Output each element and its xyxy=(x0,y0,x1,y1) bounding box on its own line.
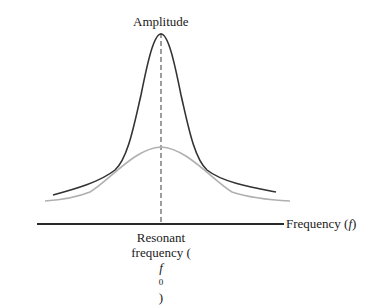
resonant-label-line2: frequency (f0) xyxy=(104,245,218,305)
broad-resonance-curve xyxy=(45,147,290,201)
amplitude-label: Amplitude xyxy=(133,14,189,29)
frequency-label-close: ) xyxy=(352,216,356,231)
resonant-label-line1: Resonant xyxy=(104,230,218,245)
resonant-label-close: ) xyxy=(104,290,218,305)
frequency-label-text: Frequency ( xyxy=(286,216,348,231)
resonant-subscript: 0 xyxy=(104,275,218,290)
resonant-label-text: frequency ( xyxy=(104,245,218,260)
resonant-variable: f xyxy=(104,260,218,275)
sharp-resonance-curve xyxy=(53,34,276,195)
resonant-frequency-label: Resonant frequency (f0) xyxy=(104,230,218,305)
frequency-axis-label: Frequency (f) xyxy=(286,216,356,231)
